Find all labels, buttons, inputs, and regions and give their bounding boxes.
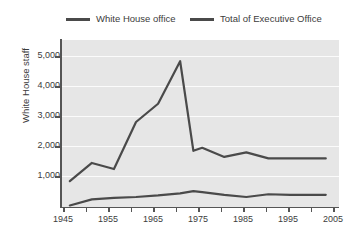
y-tick-2000: 2,000 — [0, 146, 60, 147]
x-tick-label: 1965 — [133, 214, 173, 224]
x-tick-mark-icon — [311, 207, 313, 212]
gridline — [61, 176, 339, 177]
y-tick-5000: 5,000 — [0, 56, 60, 57]
y-tick-4000: 4,000 — [0, 86, 60, 87]
y-tick-label: 2,000 — [8, 140, 60, 150]
x-tick-mark-icon — [198, 207, 200, 212]
x-tick-mark-icon — [153, 207, 155, 212]
y-tick-label: 4,000 — [8, 80, 60, 90]
y-tick-3000: 3,000 — [0, 116, 60, 117]
x-tick-mark-icon — [266, 207, 268, 212]
x-tick-mark-icon — [243, 207, 245, 212]
legend-label: White House office — [96, 13, 176, 25]
y-tick-1000: 1,000 — [0, 176, 60, 177]
legend-swatch-icon — [190, 18, 214, 21]
y-axis-line — [60, 39, 62, 208]
gridline — [61, 56, 339, 57]
gridline — [61, 116, 339, 117]
y-tick-label: 1,000 — [8, 170, 60, 180]
x-tick-mark-icon — [333, 207, 335, 212]
y-tick-mark-icon — [55, 116, 60, 118]
plot-area — [61, 40, 339, 207]
x-axis-line — [60, 207, 339, 209]
legend-swatch-icon — [66, 18, 90, 21]
legend-item-total-of-executive-office[interactable]: Total of Executive Office — [190, 10, 322, 28]
x-tick-mark-icon — [63, 207, 65, 212]
y-tick-mark-icon — [55, 86, 60, 88]
legend-label: Total of Executive Office — [220, 13, 322, 25]
y-tick-mark-icon — [55, 146, 60, 148]
x-tick-label: 1945 — [43, 214, 83, 224]
x-tick-mark-icon — [131, 207, 133, 212]
x-tick-mark-icon — [176, 207, 178, 212]
x-tick-label: 2005 — [313, 214, 347, 224]
y-tick-label: 5,000 — [8, 50, 60, 60]
legend-item-white-house-office[interactable]: White House office — [66, 10, 176, 28]
x-tick-mark-icon — [221, 207, 223, 212]
x-tick-mark-icon — [108, 207, 110, 212]
y-tick-mark-icon — [55, 176, 60, 178]
gridline — [61, 146, 339, 147]
x-tick-mark-icon — [86, 207, 88, 212]
x-tick-mark-icon — [288, 207, 290, 212]
line-chart: White House office Total of Executive Of… — [0, 0, 347, 238]
y-tick-mark-icon — [55, 56, 60, 58]
x-tick-label: 1975 — [178, 214, 218, 224]
gridline — [61, 86, 339, 87]
x-tick-label: 1995 — [268, 214, 308, 224]
x-tick-label: 1955 — [88, 214, 128, 224]
x-tick-label: 1985 — [223, 214, 263, 224]
chart-legend: White House office Total of Executive Of… — [0, 10, 347, 32]
y-tick-label: 3,000 — [8, 110, 60, 120]
